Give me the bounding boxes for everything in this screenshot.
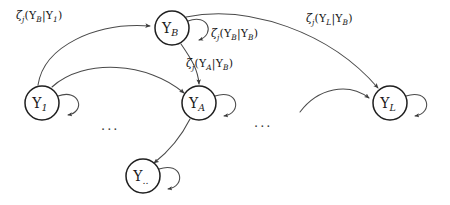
node-ydots-sub: .. [143, 175, 149, 186]
self-loop-ydots [159, 167, 180, 189]
edge-ya-to-ydots [154, 119, 190, 163]
self-loop-yb [188, 19, 208, 40]
edge-label-yl-given-yb: ζj(YL|YB) [306, 12, 353, 27]
denominator-var: Y [46, 9, 53, 22]
denominator-var: Y [216, 57, 223, 70]
ellipsis-right: ... [254, 115, 272, 130]
diagram-canvas: YB Y1 YA Y.. YL [0, 0, 450, 205]
node-yl[interactable]: YL [373, 86, 407, 120]
edge-incoming-to-yl [300, 89, 369, 112]
paren-close: ) [348, 12, 352, 25]
denominator-var: Y [241, 27, 248, 40]
edge-label-yb-given-y1: ζj(YB|Y1) [16, 9, 62, 24]
denominator-var: Y [335, 12, 342, 25]
node-yb[interactable]: YB [155, 11, 189, 45]
node-ya[interactable]: YA [182, 86, 216, 120]
edge-y1-to-yb [38, 26, 150, 85]
edge-label-yb-given-yb: ζj(YB|YB) [211, 27, 258, 42]
paren-close: ) [229, 57, 233, 70]
edge-y1-to-ya [52, 67, 184, 93]
self-loop-y1 [58, 94, 79, 115]
node-yl-sub: L [388, 102, 395, 113]
self-loop-yl [406, 94, 427, 116]
paren-close: ) [254, 27, 258, 40]
node-yb-sub: B [170, 27, 178, 38]
node-y1-sub: 1 [42, 102, 48, 113]
node-ydots[interactable]: Y.. [126, 159, 160, 193]
node-y1[interactable]: Y1 [25, 86, 59, 120]
self-loop-ya [215, 94, 236, 116]
ellipsis-left: ... [101, 118, 119, 133]
node-ya-sub: A [197, 102, 205, 113]
edge-label-ya-given-yb: ζj(YA|YB) [186, 57, 233, 72]
paren-close: ) [58, 9, 62, 22]
